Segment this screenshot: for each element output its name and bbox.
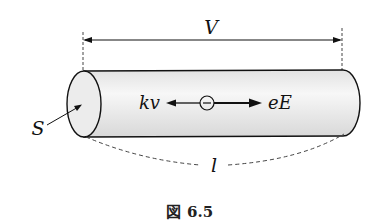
drag-force-label: kv [139,92,160,113]
figure-6-5-diagram: V S kv eE l 図 6.5 [0,0,381,224]
arrowhead-left-icon [83,37,92,43]
length-arc-left [86,137,200,165]
cross-section-face [67,71,101,137]
length-arc-right [228,134,344,165]
length-annotation: l [86,134,344,176]
length-label: l [211,154,217,176]
arrowhead-right-icon [333,37,342,43]
voltage-label: V [204,16,220,38]
caption-number: 6.5 [187,203,213,221]
caption-prefix: 図 [166,203,181,221]
area-label: S [31,117,44,139]
figure-caption: 図 6.5 [166,203,213,221]
voltage-dimension: V [83,16,342,72]
electric-force-label: eE [268,92,292,113]
